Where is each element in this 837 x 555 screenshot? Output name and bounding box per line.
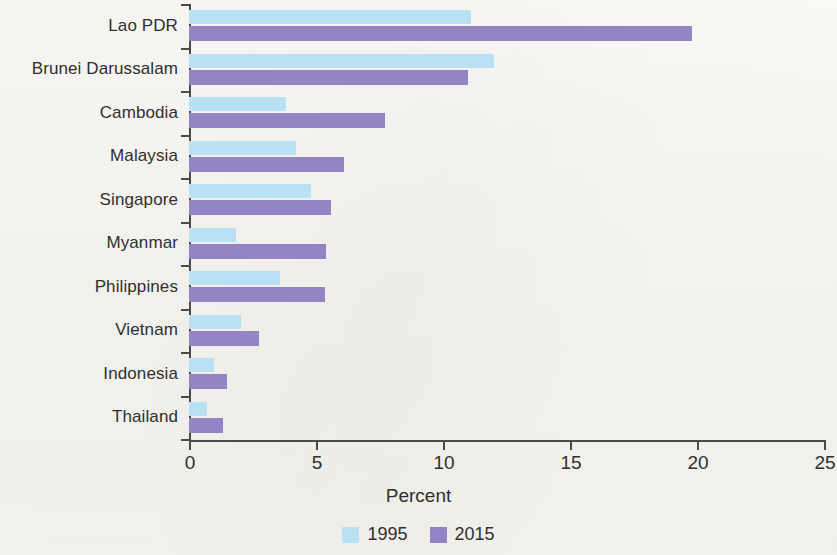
bar-2015-philippines (189, 287, 325, 302)
bar-chart: Lao PDRBrunei DarussalamCambodiaMalaysia… (0, 0, 837, 555)
x-axis-tick-label: 15 (541, 452, 601, 474)
bar-2015-myanmar (189, 244, 326, 259)
bar-1995-indonesia (189, 358, 214, 372)
y-axis-tick (181, 91, 190, 93)
legend-swatch-icon-1995 (342, 527, 359, 543)
bar-1995-vietnam (189, 315, 241, 329)
bar-1995-malaysia (189, 141, 296, 155)
bar-2015-lao-pdr (189, 26, 692, 41)
x-axis-tick (443, 441, 445, 450)
bar-1995-cambodia (189, 97, 286, 111)
bar-2015-singapore (189, 200, 331, 215)
bar-2015-vietnam (189, 331, 259, 346)
category-label-malaysia: Malaysia (0, 146, 178, 166)
x-axis-tick (316, 441, 318, 450)
x-axis-tick-label: 20 (668, 452, 728, 474)
y-axis-tick (181, 178, 190, 180)
bar-1995-brunei-darussalam (189, 54, 494, 68)
y-axis-tick (181, 265, 190, 267)
bar-1995-myanmar (189, 228, 236, 242)
category-label-thailand: Thailand (0, 407, 178, 427)
legend-entry-1995[interactable]: 1995 (342, 524, 407, 545)
bar-2015-thailand (189, 418, 223, 433)
x-axis-tick-label: 5 (287, 452, 347, 474)
x-axis-tick (697, 441, 699, 450)
category-label-lao-pdr: Lao PDR (0, 16, 178, 36)
category-label-singapore: Singapore (0, 190, 178, 210)
bar-2015-indonesia (189, 374, 227, 389)
bar-2015-malaysia (189, 157, 344, 172)
legend-entry-2015[interactable]: 2015 (430, 524, 495, 545)
category-label-cambodia: Cambodia (0, 103, 178, 123)
y-axis-tick (181, 4, 190, 6)
category-label-myanmar: Myanmar (0, 233, 178, 253)
y-axis-tick (181, 135, 190, 137)
category-label-brunei-darussalam: Brunei Darussalam (0, 59, 178, 79)
chart-legend: 19952015 (0, 524, 837, 545)
bar-1995-singapore (189, 184, 311, 198)
x-axis-tick (824, 441, 826, 450)
x-axis-tick-label: 0 (160, 452, 220, 474)
bar-2015-cambodia (189, 113, 385, 128)
y-axis-tick (181, 222, 190, 224)
category-label-philippines: Philippines (0, 277, 178, 297)
bar-1995-thailand (189, 402, 207, 416)
x-axis-title: Percent (0, 485, 837, 507)
bar-2015-brunei-darussalam (189, 70, 468, 85)
legend-label: 2015 (455, 524, 495, 545)
category-label-vietnam: Vietnam (0, 320, 178, 340)
category-label-indonesia: Indonesia (0, 364, 178, 384)
x-axis-tick (570, 441, 572, 450)
x-axis-line (189, 440, 826, 442)
y-axis-tick (181, 396, 190, 398)
bar-1995-lao-pdr (189, 10, 471, 24)
x-axis-tick-label: 10 (414, 452, 474, 474)
y-axis-tick (181, 48, 190, 50)
y-axis-tick (181, 352, 190, 354)
bar-1995-philippines (189, 271, 280, 285)
legend-label: 1995 (367, 524, 407, 545)
y-axis-tick (181, 309, 190, 311)
legend-swatch-icon-2015 (430, 527, 447, 543)
x-axis-tick-label: 25 (795, 452, 837, 474)
x-axis-tick (189, 441, 191, 450)
